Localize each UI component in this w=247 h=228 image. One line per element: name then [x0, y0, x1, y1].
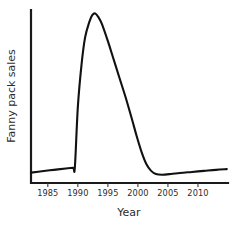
series-line-fanny-pack-sales: [31, 13, 227, 174]
x-tick-label-1990: 1990: [67, 188, 88, 198]
x-axis-title: Year: [116, 206, 141, 219]
x-tick-label-1995: 1995: [97, 188, 118, 198]
chart-container: 198519901995200020052010 Year Fanny pack…: [0, 0, 247, 228]
y-axis-title: Fanny pack sales: [5, 49, 18, 143]
axes-group: [31, 10, 228, 187]
x-tick-label-2000: 2000: [127, 188, 148, 198]
x-tick-label-2010: 2010: [187, 188, 208, 198]
x-tick-label-1985: 1985: [37, 188, 58, 198]
axis-spines: [31, 10, 228, 183]
x-tick-label-2005: 2005: [157, 188, 178, 198]
fanny-pack-sales-line-chart: 198519901995200020052010 Year Fanny pack…: [0, 0, 247, 228]
x-axis-tick-labels: 198519901995200020052010: [37, 188, 208, 198]
data-series-group: [31, 13, 227, 174]
